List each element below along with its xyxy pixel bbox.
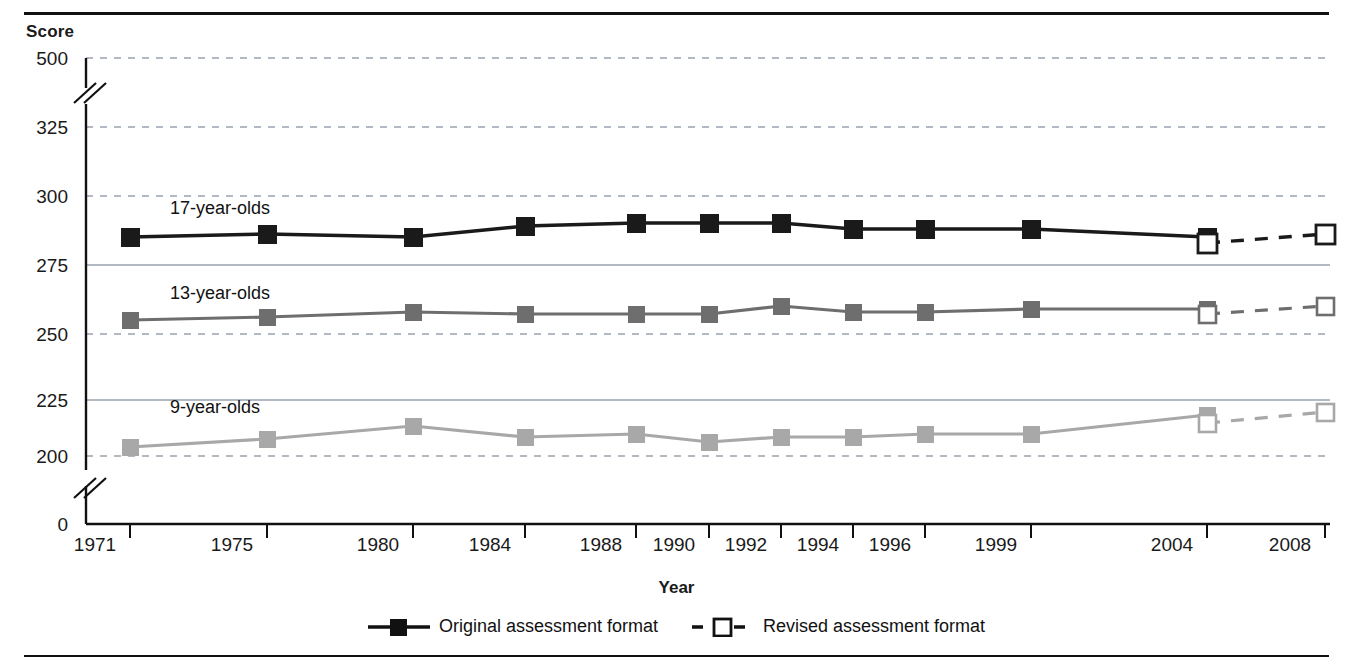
series-13-line-revised — [1207, 306, 1325, 314]
series-17-line-revised — [1207, 234, 1325, 243]
legend-label-revised: Revised assessment format — [763, 616, 985, 637]
series-label-9-year-olds: 9-year-olds — [170, 397, 260, 418]
chart-legend: Original assessment format Revised asses… — [0, 616, 1353, 637]
axis-lines — [86, 58, 1330, 524]
chart-container: Score Year 500 325 300 275 250 225 200 0… — [0, 0, 1353, 667]
series-label-13-year-olds: 13-year-olds — [170, 283, 270, 304]
x-axis-ticks — [130, 524, 1325, 538]
series-9-line-revised — [1207, 412, 1325, 423]
legend-label-original: Original assessment format — [439, 616, 658, 637]
legend-revised-swatch-icon — [692, 617, 754, 637]
gridlines — [86, 58, 1330, 456]
series-13-year-olds — [122, 298, 1334, 329]
series-17-line-original — [130, 223, 1207, 237]
series-17-year-olds — [121, 214, 1335, 253]
legend-item-revised: Revised assessment format — [692, 616, 985, 637]
plot-area — [0, 0, 1353, 667]
legend-item-original: Original assessment format — [368, 616, 658, 637]
series-9-year-olds — [122, 404, 1334, 456]
legend-original-swatch-icon — [368, 617, 430, 637]
series-13-line-original — [130, 306, 1207, 320]
series-9-line-original — [130, 415, 1207, 447]
series-label-17-year-olds: 17-year-olds — [170, 198, 270, 219]
y-axis-break-marks — [74, 83, 106, 498]
